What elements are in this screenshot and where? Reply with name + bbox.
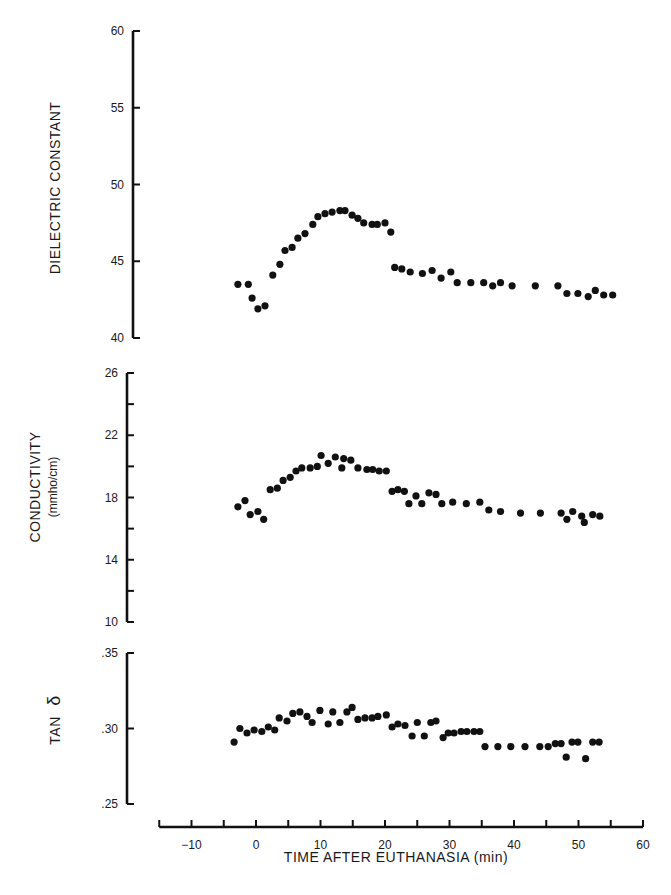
data-point	[376, 467, 383, 474]
data-point	[463, 728, 470, 735]
data-point	[347, 457, 354, 464]
conductivity-panel: CONDUCTIVITY (mmho/cm) 1014182226	[27, 366, 603, 629]
data-point	[383, 467, 390, 474]
data-point	[383, 711, 390, 718]
data-point	[309, 221, 316, 228]
data-point	[421, 732, 428, 739]
data-point	[589, 739, 596, 746]
x-tick-label: 20	[378, 838, 392, 852]
x-tick-label: 50	[572, 838, 586, 852]
dielectric-constant-panel: DIELECTRIC CONSTANT 4045505560	[47, 24, 616, 345]
data-point	[596, 739, 603, 746]
data-point	[432, 717, 439, 724]
data-point	[314, 463, 321, 470]
data-point	[254, 508, 261, 515]
data-point	[289, 710, 296, 717]
data-point	[454, 279, 461, 286]
data-point	[600, 291, 607, 298]
data-point	[354, 215, 361, 222]
data-point	[341, 207, 348, 214]
y-tick-label: .35	[101, 646, 118, 660]
x-tick-label: 60	[636, 838, 650, 852]
data-point	[401, 488, 408, 495]
data-point	[407, 268, 414, 275]
data-point	[354, 464, 361, 471]
data-point	[425, 489, 432, 496]
data-point	[409, 732, 416, 739]
data-point	[447, 268, 454, 275]
data-point	[450, 729, 457, 736]
data-point	[476, 728, 483, 735]
data-point	[258, 728, 265, 735]
data-point	[247, 511, 254, 518]
data-point	[537, 509, 544, 516]
data-point	[449, 499, 456, 506]
data-point	[418, 500, 425, 507]
data-point	[261, 302, 268, 309]
data-point	[545, 743, 552, 750]
data-point	[309, 719, 316, 726]
data-point	[563, 754, 570, 761]
data-point	[374, 713, 381, 720]
data-point	[494, 743, 501, 750]
data-point	[267, 486, 274, 493]
data-point	[251, 726, 258, 733]
data-point	[536, 743, 543, 750]
tan-label: TAN	[47, 716, 63, 744]
data-point	[360, 219, 367, 226]
y-tick-label: 14	[105, 553, 119, 567]
y-tick-label: 10	[105, 615, 119, 629]
data-point	[287, 474, 294, 481]
x-tick-label: 10	[314, 838, 328, 852]
data-point	[231, 739, 238, 746]
delta-symbol: δ	[44, 695, 64, 706]
y-tick-label: 40	[111, 331, 125, 345]
data-point	[303, 713, 310, 720]
data-point	[349, 704, 356, 711]
y-tick-label: 60	[111, 24, 125, 38]
data-point	[265, 723, 272, 730]
data-point	[532, 282, 539, 289]
x-tick-label: 40	[507, 838, 521, 852]
data-point	[405, 500, 412, 507]
dielectric-ylabel: DIELECTRIC CONSTANT	[47, 102, 63, 275]
data-point	[260, 516, 267, 523]
data-point	[361, 714, 368, 721]
data-point	[592, 287, 599, 294]
data-point	[391, 264, 398, 271]
data-point	[429, 267, 436, 274]
data-point	[298, 464, 305, 471]
data-point	[401, 722, 408, 729]
data-point	[569, 508, 576, 515]
data-point	[467, 279, 474, 286]
y-tick-label: 26	[105, 366, 119, 380]
data-point	[280, 477, 287, 484]
data-point	[394, 720, 401, 727]
data-point	[398, 265, 405, 272]
data-point	[432, 491, 439, 498]
conductivity-ylabel: CONDUCTIVITY	[27, 431, 43, 542]
data-point	[563, 290, 570, 297]
y-tick-label: 18	[105, 491, 119, 505]
data-point	[301, 230, 308, 237]
data-point	[558, 740, 565, 747]
data-point	[296, 708, 303, 715]
tan-delta-ylabel: TAN δ	[44, 695, 64, 744]
data-point	[325, 720, 332, 727]
data-point	[480, 279, 487, 286]
data-point	[354, 716, 361, 723]
data-point	[517, 509, 524, 516]
data-point	[316, 707, 323, 714]
data-point	[289, 244, 296, 251]
data-point	[276, 261, 283, 268]
data-point	[521, 743, 528, 750]
data-point	[558, 509, 565, 516]
data-point	[463, 500, 470, 507]
data-point	[476, 499, 483, 506]
data-point	[338, 464, 345, 471]
data-point	[387, 229, 394, 236]
data-point	[271, 726, 278, 733]
data-point	[269, 272, 276, 279]
x-tick-label: −10	[181, 838, 202, 852]
data-point	[412, 492, 419, 499]
